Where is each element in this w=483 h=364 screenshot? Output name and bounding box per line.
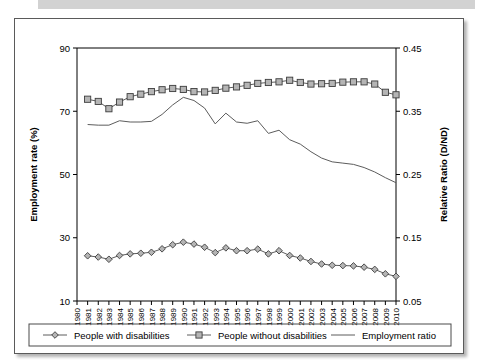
x-axis-tick-label: 1982 bbox=[95, 307, 104, 325]
diamond-marker bbox=[201, 244, 208, 251]
x-axis-tick-label: 1989 bbox=[169, 307, 178, 325]
series-line-people-without-disabilities bbox=[88, 80, 396, 108]
square-marker bbox=[287, 77, 293, 83]
x-axis-tick-label: 2001 bbox=[297, 307, 306, 325]
square-marker bbox=[372, 81, 378, 87]
x-axis-tick-label: 1984 bbox=[116, 307, 125, 325]
square-marker bbox=[361, 79, 367, 85]
diamond-marker bbox=[180, 239, 187, 246]
x-axis-tick-label: 1999 bbox=[275, 307, 284, 325]
square-marker bbox=[233, 84, 239, 90]
x-axis-tick-label: 1985 bbox=[126, 307, 135, 325]
diamond-marker bbox=[254, 246, 261, 253]
x-axis-tick-label: 2004 bbox=[329, 307, 338, 325]
figure-container: 10305070900.050.150.250.350.451980198119… bbox=[14, 18, 464, 354]
diamond-marker bbox=[84, 252, 91, 259]
right-axis-tick-label: 0.15 bbox=[403, 232, 422, 243]
x-axis-tick-label: 2003 bbox=[318, 307, 327, 325]
diamond-marker bbox=[138, 250, 145, 257]
square-marker bbox=[265, 79, 271, 85]
x-axis-tick-label: 1996 bbox=[243, 307, 252, 325]
square-marker bbox=[350, 79, 356, 85]
x-axis-tick-label: 2006 bbox=[350, 307, 359, 325]
diamond-marker bbox=[297, 255, 304, 262]
diamond-marker bbox=[361, 264, 368, 271]
square-marker bbox=[106, 106, 112, 112]
x-axis-tick-label: 2009 bbox=[382, 307, 391, 325]
square-marker bbox=[127, 94, 133, 100]
square-marker bbox=[170, 85, 176, 91]
x-axis-tick-label: 1990 bbox=[180, 307, 189, 325]
right-axis-tick-label: 0.25 bbox=[403, 169, 422, 180]
x-axis-tick-label: 2010 bbox=[392, 307, 401, 325]
right-axis-tick-label: 0.35 bbox=[403, 106, 422, 117]
square-marker bbox=[180, 86, 186, 92]
square-marker bbox=[196, 332, 202, 338]
employment-rate-chart: 10305070900.050.150.250.350.451980198119… bbox=[15, 19, 465, 355]
x-axis-tick-label: 1988 bbox=[158, 307, 167, 325]
page-top-band bbox=[38, 0, 475, 9]
left-axis-tick-label: 90 bbox=[59, 43, 70, 54]
diamond-marker bbox=[191, 241, 198, 248]
diamond-marker bbox=[159, 246, 166, 253]
square-marker bbox=[318, 81, 324, 87]
diamond-marker bbox=[329, 262, 336, 269]
square-marker bbox=[329, 80, 335, 86]
diamond-marker bbox=[169, 241, 176, 248]
square-marker bbox=[148, 89, 154, 95]
diamond-marker bbox=[276, 247, 283, 254]
x-axis-tick-label: 2008 bbox=[371, 307, 380, 325]
diamond-marker bbox=[127, 251, 134, 258]
legend-item-label: People with disabilities bbox=[74, 330, 170, 341]
square-marker bbox=[212, 87, 218, 93]
x-axis-tick-label: 2002 bbox=[307, 307, 316, 325]
diamond-marker bbox=[116, 252, 123, 259]
series-line-employment-ratio bbox=[88, 97, 396, 182]
diamond-marker bbox=[106, 256, 113, 263]
legend-item[interactable]: People without disabilities bbox=[187, 330, 327, 341]
left-axis-title: Employment rate (%) bbox=[28, 127, 39, 222]
square-marker bbox=[255, 80, 261, 86]
square-marker bbox=[116, 99, 122, 105]
series-line-people-with-disabilities bbox=[88, 242, 396, 276]
legend-item-label: People without disabilities bbox=[218, 330, 327, 341]
x-axis-tick-label: 1997 bbox=[254, 307, 263, 325]
x-axis-tick-label: 1995 bbox=[233, 307, 242, 325]
x-axis-tick-label: 2007 bbox=[360, 307, 369, 325]
square-marker bbox=[202, 89, 208, 95]
x-axis-tick-label: 1986 bbox=[137, 307, 146, 325]
diamond-marker bbox=[382, 271, 389, 278]
x-axis-tick-label: 1983 bbox=[105, 307, 114, 325]
right-axis-title: Relative Ratio (D/ND) bbox=[438, 127, 449, 222]
x-axis-tick-label: 1980 bbox=[73, 307, 82, 325]
right-axis-tick-label: 0.05 bbox=[403, 296, 422, 307]
left-axis-tick-label: 50 bbox=[59, 169, 70, 180]
x-axis-tick-label: 1994 bbox=[222, 307, 231, 325]
diamond-marker bbox=[318, 261, 325, 268]
square-marker bbox=[138, 91, 144, 97]
chart-plot-host: 10305070900.050.150.250.350.451980198119… bbox=[15, 19, 465, 355]
diamond-marker bbox=[308, 258, 315, 265]
diamond-marker bbox=[244, 247, 251, 254]
legend-item[interactable]: Employment ratio bbox=[331, 330, 436, 341]
screenshot-root: 10305070900.050.150.250.350.451980198119… bbox=[0, 0, 483, 364]
square-marker bbox=[393, 92, 399, 98]
diamond-marker bbox=[212, 249, 219, 256]
square-marker bbox=[159, 87, 165, 93]
x-axis-tick-label: 1987 bbox=[148, 307, 157, 325]
left-axis-tick-label: 10 bbox=[59, 296, 70, 307]
diamond-marker bbox=[52, 332, 59, 339]
x-axis-tick-label: 1981 bbox=[84, 307, 93, 325]
square-marker bbox=[382, 89, 388, 95]
square-marker bbox=[340, 79, 346, 85]
x-axis-tick-label: 1993 bbox=[212, 307, 221, 325]
square-marker bbox=[85, 96, 91, 102]
square-marker bbox=[308, 81, 314, 87]
diamond-marker bbox=[371, 266, 378, 273]
x-axis-tick-label: 1991 bbox=[190, 307, 199, 325]
diamond-marker bbox=[350, 263, 357, 270]
right-axis-tick-label: 0.45 bbox=[403, 43, 422, 54]
legend-item[interactable]: People with disabilities bbox=[43, 330, 170, 341]
square-marker bbox=[223, 85, 229, 91]
left-axis-tick-label: 30 bbox=[59, 232, 70, 243]
